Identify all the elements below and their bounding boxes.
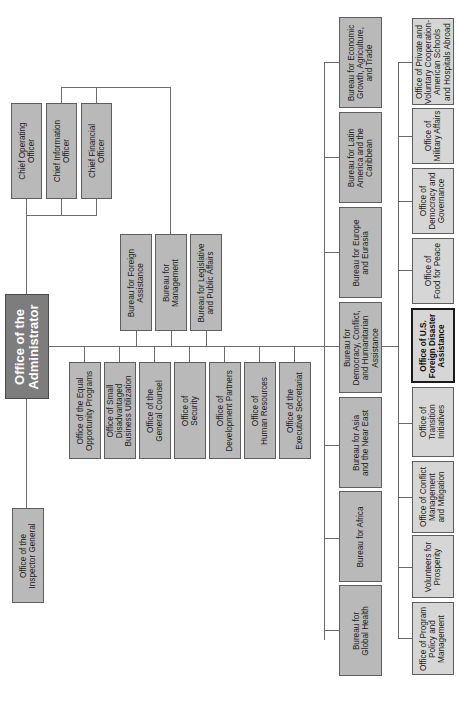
- box-label: Office of Small Disadvantaged Business U…: [106, 375, 134, 446]
- office-of-equal-opportunity-programs[interactable]: Office of the Equal Opportunity Programs: [69, 362, 101, 459]
- bureau-for-europe-and-eurasia[interactable]: Bureau for Europe and Eurasia: [339, 207, 382, 298]
- connector-dcha-from-bureau: [383, 346, 398, 347]
- connector-staff-3: [154, 346, 155, 362]
- connector-chief-info-top: [61, 87, 62, 103]
- connector-chief-info-stub: [61, 199, 62, 215]
- connector-dcha-4: [398, 270, 412, 271]
- connector-upper-bureau-2: [171, 331, 172, 346]
- connector-bureau-2: [324, 157, 339, 158]
- box-label: Office of the Inspector General: [19, 523, 37, 588]
- box-label: Office of Transition Initiatives: [419, 404, 447, 440]
- chief-financial-officer[interactable]: Chief Financial Officer: [81, 103, 112, 199]
- chief-information-officer[interactable]: Chief Information Officer: [46, 103, 77, 199]
- chief-operating-officer[interactable]: Chief Operating Officer: [11, 103, 42, 199]
- office-of-security[interactable]: Office of Security: [174, 362, 206, 459]
- connector-bureau-7: [324, 630, 339, 631]
- office-of-the-administrator[interactable]: Office of the Administrator: [5, 294, 49, 399]
- box-label: Office of U.S. Foreign Disaster Assistan…: [419, 313, 447, 378]
- connector-dcha-2: [398, 136, 412, 137]
- connector-staff-2: [119, 346, 120, 362]
- box-label: Office of Food for Peace: [424, 243, 442, 299]
- connector-staff-1: [84, 346, 85, 362]
- box-label: Bureau for Latin America and the Caribbe…: [347, 128, 375, 188]
- bureau-for-democracy-conflict-and-humanitarian-assistance[interactable]: Bureau for Democracy, Conflict, and Huma…: [339, 302, 382, 393]
- org-chart: Office of the Administrator Office of th…: [0, 0, 459, 709]
- box-label: Office of the Equal Opportunity Programs: [76, 370, 94, 450]
- box-label: Office of Human Resources: [251, 377, 269, 445]
- connector-bureau-5: [324, 445, 339, 446]
- box-label: Bureau for Asia and the Near East: [351, 410, 369, 476]
- connector-bureau-3: [324, 252, 339, 253]
- box-label: Office of the Executive Secretariat: [286, 372, 304, 449]
- bureau-for-management[interactable]: Bureau for Management: [155, 234, 187, 331]
- office-of-the-executive-secretariat[interactable]: Office of the Executive Secretariat: [279, 362, 311, 459]
- office-of-military-affairs[interactable]: Office of Military Affairs: [412, 108, 454, 164]
- connector-dcha-8: [398, 567, 412, 568]
- box-label: Bureau for Europe and Eurasia: [351, 219, 369, 286]
- box-label: Bureau for Democracy, Conflict, and Huma…: [342, 310, 379, 385]
- office-of-the-general-counsel[interactable]: Office of the General Counsel: [139, 362, 171, 459]
- bureau-for-economic-growth-agriculture-and-trade[interactable]: Bureau for Economic Growth, Agriculture,…: [339, 17, 382, 108]
- office-of-transition-initiatives[interactable]: Office of Transition Initiatives: [412, 387, 454, 457]
- connector-chief-financial-top: [96, 87, 97, 103]
- connector-staff-7: [294, 346, 295, 362]
- connector-dcha-7: [398, 497, 412, 498]
- office-of-conflict-management-and-mitigation[interactable]: Office of Conflict Management and Mitiga…: [412, 461, 454, 533]
- box-label: Office of Development Partners: [216, 370, 234, 451]
- box-label: Bureau for Legislative and Public Affair…: [197, 243, 215, 322]
- bureau-for-global-health[interactable]: Bureau for Global Health: [339, 585, 382, 676]
- box-label: Office of Democracy and Governance: [419, 172, 447, 229]
- connector-upper-bureau-3: [206, 331, 207, 346]
- bureau-for-legislative-and-public-affairs[interactable]: Bureau for Legislative and Public Affair…: [190, 234, 222, 331]
- connector-chief-operating-stub: [26, 199, 27, 215]
- box-label: Office of the General Counsel: [146, 380, 164, 441]
- connector-upper-bureau-1: [136, 331, 137, 346]
- connector-chiefs-top-bar: [61, 87, 171, 88]
- connector-dcha-3: [398, 201, 412, 202]
- connector-main-spine: [48, 346, 384, 347]
- connector-staff-5: [224, 346, 225, 362]
- office-of-development-partners[interactable]: Office of Development Partners: [209, 362, 241, 459]
- office-of-democracy-and-governance[interactable]: Office of Democracy and Governance: [412, 168, 454, 234]
- box-label: Office of Military Affairs: [424, 111, 442, 162]
- bureau-for-latin-america-and-the-caribbean[interactable]: Bureau for Latin America and the Caribbe…: [339, 112, 382, 203]
- bureau-for-asia-and-the-near-east[interactable]: Bureau for Asia and the Near East: [339, 397, 382, 488]
- box-label: Bureau for Global Health: [351, 606, 369, 656]
- connector-dcha-spine: [398, 62, 399, 638]
- box-label: Office of Program Policy and Management: [419, 606, 447, 670]
- box-label: Chief Financial Officer: [87, 124, 105, 178]
- connector-chief-financial-stub: [96, 199, 97, 215]
- box-label: Office of Security: [181, 395, 199, 425]
- office-of-private-and-voluntary-cooperation[interactable]: Office of Private and Voluntary Cooperat…: [412, 18, 454, 105]
- bureau-for-foreign-assistance[interactable]: Bureau for Foreign Assistance: [120, 234, 152, 331]
- office-of-us-foreign-disaster-assistance[interactable]: Office of U.S. Foreign Disaster Assistan…: [411, 308, 455, 383]
- volunteers-for-prosperity[interactable]: Volunteers for Prosperity: [412, 535, 454, 598]
- box-label: Bureau for Foreign Assistance: [127, 248, 145, 316]
- connector-management-vertical: [170, 87, 171, 234]
- connector-dcha-6: [398, 423, 412, 424]
- office-of-program-policy-and-management[interactable]: Office of Program Policy and Management: [412, 602, 454, 675]
- box-label: Office of the Administrator: [13, 304, 41, 389]
- bureau-for-africa[interactable]: Bureau for Africa: [339, 491, 382, 582]
- connector-bureaus-spine: [324, 62, 325, 640]
- box-label: Chief Operating Officer: [17, 122, 35, 179]
- office-of-small-disadvantaged-business-utilization[interactable]: Office of Small Disadvantaged Business U…: [104, 362, 136, 459]
- box-label: Volunteers for Prosperity: [424, 541, 442, 592]
- connector-dcha-1: [398, 62, 412, 63]
- box-label: Office of Private and Voluntary Cooperat…: [415, 20, 452, 104]
- connector-chiefs-bottom-bar: [26, 215, 97, 216]
- box-label: Bureau for Management: [162, 259, 180, 307]
- office-of-food-for-peace[interactable]: Office of Food for Peace: [412, 238, 454, 304]
- box-label: Chief Information Officer: [52, 120, 70, 182]
- connector-staff-6: [259, 346, 260, 362]
- connector-admin-to-ig: [26, 399, 27, 508]
- connector-admin-to-chiefs: [26, 215, 27, 295]
- box-label: Office of Conflict Management and Mitiga…: [419, 467, 447, 527]
- office-of-human-resources[interactable]: Office of Human Resources: [244, 362, 276, 459]
- box-label: Bureau for Economic Growth, Agriculture,…: [347, 24, 375, 100]
- connector-dcha-9: [398, 638, 412, 639]
- box-label: Bureau for Africa: [356, 506, 365, 567]
- office-of-the-inspector-general[interactable]: Office of the Inspector General: [12, 508, 44, 603]
- connector-bureau-1: [324, 62, 339, 63]
- connector-staff-4: [189, 346, 190, 362]
